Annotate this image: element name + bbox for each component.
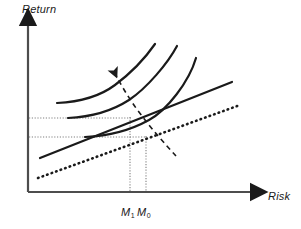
- marker-label-m1: M1: [121, 206, 134, 218]
- shift-direction-arrow: [113, 69, 176, 156]
- indifference-curve-1: [57, 44, 155, 103]
- marker-label-m0-base: M: [137, 206, 146, 218]
- indifference-curve-diagram: Return Risk M1 M0: [0, 0, 301, 229]
- chart-canvas: [0, 0, 301, 229]
- capital-market-line-new: [40, 82, 232, 158]
- indifference-curve-3: [85, 58, 196, 137]
- axis-group: [28, 24, 252, 192]
- y-axis-label: Return: [22, 3, 56, 15]
- marker-label-m1-base: M: [121, 206, 130, 218]
- capital-market-line-old: [38, 105, 240, 178]
- marker-label-m1-subscript: 1: [131, 212, 135, 219]
- x-axis-label: Risk: [268, 190, 290, 202]
- indifference-curve-2: [68, 46, 177, 118]
- marker-label-m0: M0: [137, 206, 150, 218]
- marker-label-m0-subscript: 0: [147, 212, 151, 219]
